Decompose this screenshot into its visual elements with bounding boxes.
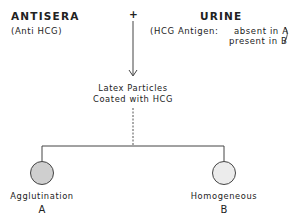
outcome-circle-a <box>30 161 54 185</box>
outcome-b-label: Homogeneous <box>184 191 264 201</box>
outcome-a-label: Agglutination <box>2 191 82 201</box>
outcome-b-letter: B <box>184 204 264 215</box>
urine-line2: present in B <box>229 36 288 46</box>
latex-label-line1: Latex Particles <box>83 83 183 93</box>
outcome-circle-b <box>212 161 236 185</box>
antisera-title: ANTISERA <box>11 10 80 22</box>
urine-line1: absent in A <box>234 26 289 36</box>
urine-title: URINE <box>200 10 242 22</box>
urine-subtitle-prefix: (HCG Antigen: <box>150 26 219 36</box>
antisera-subtitle: (Anti HCG) <box>11 26 62 36</box>
latex-label-line2: Coated with HCG <box>83 94 183 104</box>
outcome-a-letter: A <box>2 204 82 215</box>
plus-operator: + <box>129 8 139 20</box>
